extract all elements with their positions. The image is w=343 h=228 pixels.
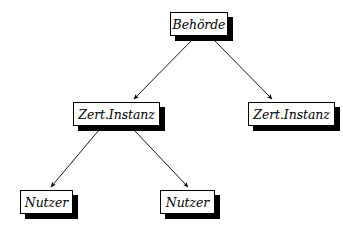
diagram-canvas: Behörde Zert.Instanz Zert.Instanz Nutzer… (0, 0, 343, 228)
edge-behoerde-to-zert-left (134, 40, 192, 99)
node-zert-instanz-right[interactable]: Zert.Instanz (248, 102, 335, 126)
node-nutzer-left[interactable]: Nutzer (20, 190, 73, 214)
node-nutzer-middle[interactable]: Nutzer (160, 190, 215, 214)
node-zert-instanz-left[interactable]: Zert.Instanz (73, 102, 160, 126)
edge-zert-left-to-nutzer-middle (134, 130, 188, 187)
edge-behoerde-to-zert-right (214, 40, 272, 99)
node-behoerde[interactable]: Behörde (170, 12, 228, 36)
edge-zert-left-to-nutzer-left (51, 130, 99, 187)
